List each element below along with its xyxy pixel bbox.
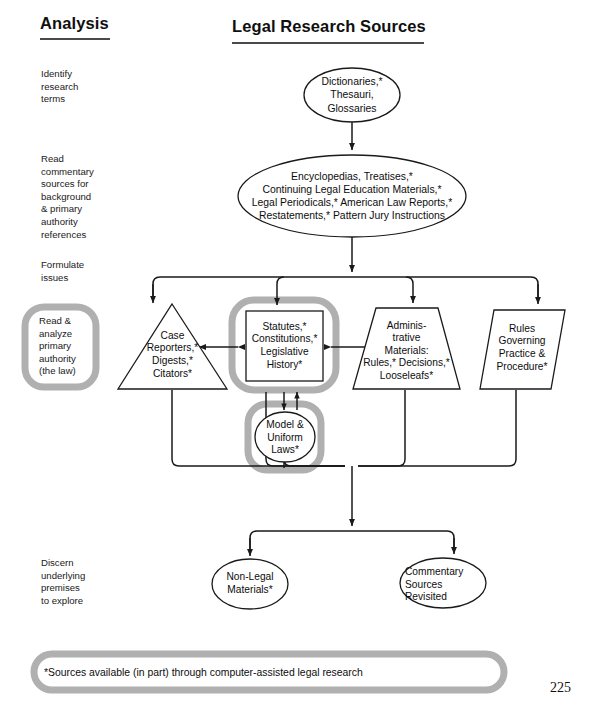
node-label-case-reporters: Case Reporters,* Digests,* Citators* (120, 326, 225, 384)
node-label-non-legal: Non-Legal Materials* (213, 569, 287, 599)
stage-label-formulate: Formulate issues (41, 259, 84, 284)
stage-label-read-commentary: Read commentary sources for background &… (41, 153, 94, 241)
footnote-text: *Sources available (in part) through com… (44, 667, 363, 678)
stage-label-discern: Discern underlying premises to explore (41, 557, 85, 607)
node-label-statutes: Statutes,* Constitutions,* Legislative H… (243, 316, 326, 376)
page-canvas: Analysis Legal Research Sources Identify… (0, 0, 589, 702)
node-label-commentary-revisited: Commentary Sources Revisited (405, 566, 485, 606)
rail-rules-governing-down (358, 390, 516, 466)
bottom-split-bus-right (352, 531, 454, 549)
stage-label-identify: Identify research terms (41, 68, 78, 106)
header-analysis-rule (40, 38, 110, 40)
distribution-bus-right (352, 277, 538, 300)
node-label-dictionaries: Dictionaries,* Thesauri, Glossaries (304, 71, 400, 119)
header-legal-research-sources: Legal Research Sources (232, 17, 426, 36)
header-legal-research-sources-rule (232, 42, 424, 44)
node-label-administrative: Adminis- trative Materials: Rules,* Deci… (354, 317, 459, 385)
bottom-split-bus-left (250, 531, 352, 551)
header-analysis: Analysis (40, 14, 109, 33)
node-label-model-uniform: Model & Uniform Laws* (256, 417, 314, 459)
distribution-bus (153, 277, 352, 297)
page-number: 225 (550, 680, 571, 696)
connector-bus-to-administrative (406, 277, 413, 303)
stage-label-read-analyze: Read & analyze primary authority (the la… (39, 315, 76, 378)
rail-administrative-down (358, 390, 405, 466)
node-label-encyclopedias: Encyclopedias, Treatises,* Continuing Le… (240, 168, 464, 224)
node-label-rules-governing: Rules Governing Practice & Procedure* (482, 317, 562, 379)
